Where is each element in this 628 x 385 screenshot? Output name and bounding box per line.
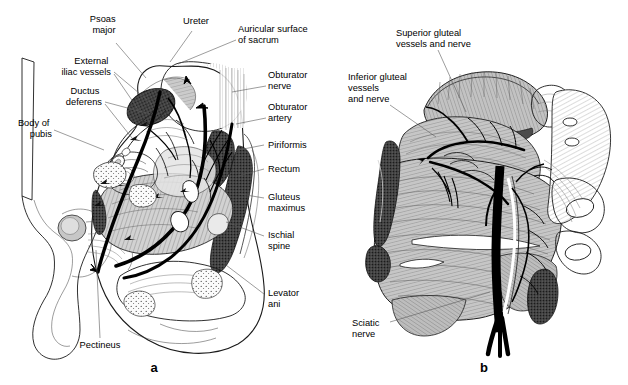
label-ductus-deferens: Ductus deferens [66, 86, 103, 107]
label-ureter: Ureter [183, 16, 209, 26]
anatomy-figure: Psoas major Ureter Auricular surface of … [0, 0, 628, 385]
label-piriformis: Piriformis [268, 140, 307, 150]
sacral-foramen-lower [565, 138, 579, 146]
figure-canvas: Psoas major Ureter Auricular surface of … [0, 0, 628, 385]
label-superior-gluteal-vessels-and-nerve: Superior gluteal vessels and nerve [396, 28, 471, 49]
label-gluteus-maximus: Gluteus maximus [268, 192, 306, 213]
ischial-spine [208, 214, 229, 235]
panel-letter-b: b [480, 360, 488, 375]
label-pectineus: Pectineus [80, 340, 121, 350]
label-psoas-major: Psoas major [90, 14, 118, 35]
panel-letter-a: a [150, 360, 158, 375]
label-rectum: Rectum [268, 164, 300, 174]
sacral-foramen-upper [563, 118, 577, 126]
